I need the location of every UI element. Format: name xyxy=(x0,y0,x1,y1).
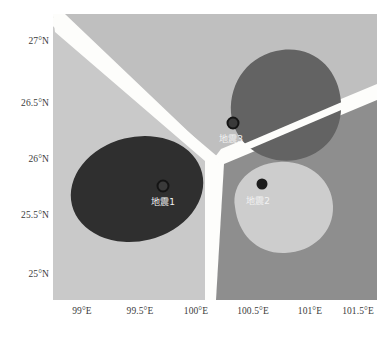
y-tick-25_5n: 25.5°N xyxy=(21,210,49,220)
y-tick-26_5n: 26.5°N xyxy=(21,98,49,108)
x-tick-101e: 101°E xyxy=(298,306,322,316)
y-tick-25n: 25°N xyxy=(28,269,49,279)
x-tick-101_5e: 101.5°E xyxy=(342,306,374,316)
eq2-circle-icon xyxy=(257,179,268,190)
x-axis-tick-labels: 99°E 99.5°E 100°E 100.5°E 101°E 101.5°E xyxy=(0,302,392,326)
eq1-label: 地震1 xyxy=(151,195,175,208)
y-tick-26n: 26°N xyxy=(28,154,49,164)
x-tick-100_5e: 100.5°E xyxy=(237,306,269,316)
eq1-circle-icon xyxy=(157,180,170,193)
x-tick-99e: 99°E xyxy=(72,306,92,316)
map-plot-area: 地震1 地震2 地震3 xyxy=(53,14,377,300)
eq3-circle-icon xyxy=(227,117,240,130)
y-tick-27n: 27°N xyxy=(28,36,49,46)
eq3-label: 地震3 xyxy=(219,132,243,145)
eq2-label: 地震2 xyxy=(246,194,270,207)
x-tick-99_5e: 99.5°E xyxy=(127,306,154,316)
seismic-intensity-map-figure: 地震1 地震2 地震3 27°N 26.5°N 26°N 25.5°N 25°N… xyxy=(0,0,392,342)
map-raster xyxy=(53,14,377,300)
x-tick-100e: 100°E xyxy=(184,306,208,316)
y-axis-tick-labels: 27°N 26.5°N 26°N 25.5°N 25°N xyxy=(0,0,49,342)
fault-nw-se xyxy=(210,160,214,300)
